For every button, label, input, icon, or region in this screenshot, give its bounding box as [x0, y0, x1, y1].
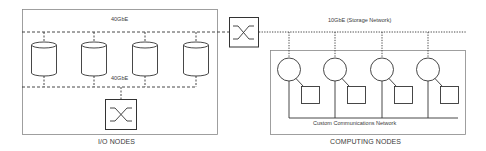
memory-square-icon — [348, 87, 366, 104]
compute-node-2 — [324, 32, 366, 118]
compute-node-4 — [417, 32, 459, 118]
processor-circle-icon — [371, 58, 394, 81]
processor-circle-icon — [417, 58, 440, 81]
cluster-architecture-diagram — [0, 0, 486, 151]
io-top-network-label: 40GbE — [111, 17, 128, 23]
storage-node-2 — [82, 32, 107, 87]
memory-square-icon — [302, 87, 320, 104]
memory-link — [435, 79, 442, 87]
memory-square-icon — [441, 87, 459, 104]
memory-link — [342, 79, 349, 87]
database-cylinder-icon — [184, 42, 209, 76]
storage-node-3 — [133, 32, 158, 87]
processor-circle-icon — [278, 58, 301, 81]
compute-nodes-group — [278, 32, 459, 118]
core-switch — [230, 18, 259, 48]
memory-link — [389, 79, 396, 87]
database-cylinder-icon — [133, 42, 158, 76]
io-bottom-network-label: 40GbE — [111, 76, 128, 82]
database-cylinder-icon — [32, 42, 57, 76]
storage-network-label: 10GbE (Storage Network) — [328, 18, 391, 24]
comm-network-label: Custom Communications Network — [313, 121, 396, 127]
computing-nodes-caption: COMPUTING NODES — [330, 138, 401, 145]
io-internal-switch — [106, 100, 137, 130]
io-nodes-caption: I/O NODES — [98, 138, 135, 145]
storage-node-4 — [184, 32, 209, 87]
memory-square-icon — [395, 87, 413, 104]
compute-node-1 — [278, 32, 320, 118]
memory-link — [296, 79, 303, 87]
storage-node-1 — [32, 32, 57, 87]
processor-circle-icon — [324, 58, 347, 81]
compute-node-3 — [371, 32, 413, 118]
database-cylinder-icon — [82, 42, 107, 76]
